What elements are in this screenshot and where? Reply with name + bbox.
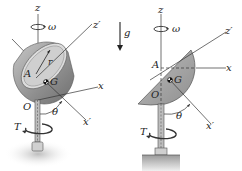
gravity-arrow-icon xyxy=(117,45,123,51)
left-label-x: x xyxy=(98,81,104,91)
left-bearing xyxy=(32,142,43,151)
left-label-z-prime: z′ xyxy=(93,20,101,30)
right-ground-base xyxy=(142,155,180,171)
gravity-indicator xyxy=(117,22,123,51)
left-label-T: T xyxy=(14,122,21,132)
right-label-A: A xyxy=(152,60,159,70)
left-label-x-prime: x′ xyxy=(83,117,91,127)
left-view xyxy=(4,14,98,168)
right-label-x: x xyxy=(226,63,232,73)
right-bearing xyxy=(155,148,167,155)
left-label-z: z xyxy=(35,3,40,13)
right-solid-hemisphere xyxy=(138,50,195,105)
right-label-O: O xyxy=(151,90,159,100)
gravity-label-g: g xyxy=(124,28,130,38)
right-label-z-prime: z′ xyxy=(225,26,233,36)
left-label-theta: θ xyxy=(52,107,58,117)
left-label-G: G xyxy=(50,77,58,87)
hemisphere-dynamics-figure: z ω z′ r A G x O θ x′ T g z ω z′ A G x O… xyxy=(0,0,242,171)
right-label-x-prime: x′ xyxy=(206,121,214,131)
right-label-z: z xyxy=(158,5,163,15)
left-label-A: A xyxy=(24,69,31,79)
left-label-omega: ω xyxy=(48,22,56,32)
right-label-T: T xyxy=(140,127,147,137)
left-label-O: O xyxy=(23,102,31,112)
left-label-r: r xyxy=(48,58,52,67)
figure-graphics xyxy=(0,0,242,171)
right-label-G: G xyxy=(174,75,182,85)
right-label-theta: θ xyxy=(176,111,182,121)
right-label-omega: ω xyxy=(172,24,180,34)
